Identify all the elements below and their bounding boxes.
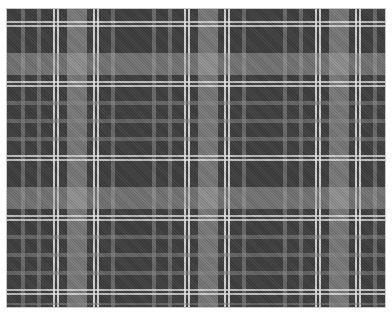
twill-texture [7,9,385,307]
tartan-swatch [6,8,386,308]
